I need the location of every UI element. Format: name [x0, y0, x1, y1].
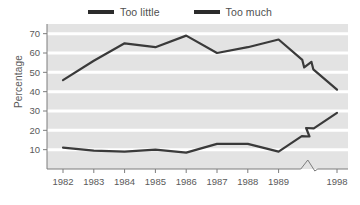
x-tick-marks — [63, 169, 337, 173]
legend-item-too-much: Too much — [194, 6, 272, 18]
x-tick-label: 1998 — [326, 176, 347, 187]
y-tick-label: 60 — [29, 47, 40, 58]
x-tick-label: 1984 — [114, 176, 135, 187]
y-tick-label: 10 — [29, 144, 40, 155]
x-tick-label: 1986 — [176, 176, 197, 187]
legend-line-swatch-icon — [88, 10, 114, 14]
y-tick-marks — [43, 34, 47, 150]
y-tick-label: 30 — [29, 105, 40, 116]
y-tick-label: 70 — [29, 28, 40, 39]
legend-item-too-little: Too little — [88, 6, 160, 18]
y-tick-labels: 10203040506070 — [29, 28, 40, 155]
x-tick-label: 1983 — [83, 176, 104, 187]
legend-label-too-much: Too much — [226, 6, 272, 18]
legend-label-too-little: Too little — [120, 6, 160, 18]
legend-line-swatch-icon — [194, 10, 220, 14]
x-tick-label: 1988 — [237, 176, 258, 187]
x-tick-label: 1987 — [206, 176, 227, 187]
y-tick-label: 40 — [29, 86, 40, 97]
survey-line-chart: Too little Too much Percentage 102030405… — [0, 0, 360, 205]
y-tick-label: 50 — [29, 67, 40, 78]
plot-area: 10203040506070 1982198319841985198619871… — [0, 18, 360, 205]
x-tick-label: 1982 — [52, 176, 73, 187]
x-tick-labels: 198219831984198519861987198819891998 — [52, 176, 347, 187]
x-tick-label: 1989 — [268, 176, 289, 187]
x-tick-label: 1985 — [145, 176, 166, 187]
plot-background — [47, 24, 348, 169]
y-tick-label: 20 — [29, 125, 40, 136]
